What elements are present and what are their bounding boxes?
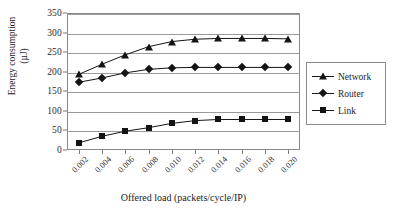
data-point-link — [146, 125, 152, 131]
data-point-router — [74, 78, 82, 86]
data-point-link — [285, 116, 291, 122]
legend-label: Link — [334, 106, 356, 116]
triangle-icon — [312, 71, 334, 82]
legend-label: Router — [334, 89, 364, 99]
data-point-network — [168, 38, 176, 45]
data-point-router — [98, 74, 106, 82]
data-point-link — [169, 120, 175, 126]
data-point-link — [239, 116, 245, 122]
data-point-link — [215, 116, 221, 122]
chart-legend: NetworkRouterLink — [306, 62, 386, 125]
legend-item-link[interactable]: Link — [307, 102, 385, 119]
data-point-router — [284, 63, 292, 71]
data-point-router — [238, 63, 246, 71]
data-point-network — [261, 35, 269, 42]
data-point-router — [121, 69, 129, 77]
data-point-router — [168, 64, 176, 72]
data-point-network — [238, 35, 246, 42]
data-point-network — [191, 36, 199, 43]
square-icon — [312, 105, 334, 116]
data-point-router — [191, 63, 199, 71]
diamond-icon — [312, 88, 334, 99]
legend-item-network[interactable]: Network — [307, 68, 385, 85]
data-point-link — [76, 140, 82, 146]
data-point-network — [121, 51, 129, 58]
data-point-router — [261, 63, 269, 71]
data-point-network — [214, 35, 222, 42]
data-point-link — [262, 116, 268, 122]
energy-consumption-chart: 050100150200250300350 Energy consumption… — [0, 0, 393, 211]
data-point-router — [144, 65, 152, 73]
data-point-link — [122, 128, 128, 134]
data-point-router — [214, 63, 222, 71]
legend-item-router[interactable]: Router — [307, 85, 385, 102]
legend-label: Network — [334, 72, 371, 82]
data-point-link — [192, 118, 198, 124]
data-point-network — [98, 61, 106, 68]
data-point-network — [284, 35, 292, 42]
data-point-network — [145, 43, 153, 50]
data-point-link — [99, 133, 105, 139]
